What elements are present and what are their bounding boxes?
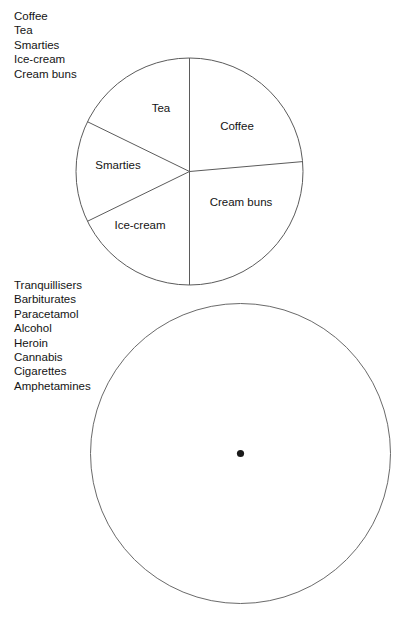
pie-centre-dot [237,450,244,457]
list-item: Heroin [14,336,91,350]
pie-sector-divider [87,122,189,172]
pie-sector-divider [87,172,189,222]
slice-label-tea: Tea [152,102,171,114]
worksheet-page: Coffee Tea Smarties Ice-cream Cream buns… [0,0,404,620]
foods-pie-chart: Coffee Cream buns Ice-cream Smarties Tea [76,58,303,285]
pie-outline [76,58,303,285]
list-item: Paracetamol [14,307,91,321]
slice-label-coffee: Coffee [220,120,254,132]
list-item: Coffee [14,9,77,23]
slice-label-ice-cream: Ice-cream [114,219,165,231]
list-item: Amphetamines [14,379,91,393]
pie-sector-divider [190,162,303,172]
list-item: Tea [14,23,77,37]
list-item: Tranquillisers [14,278,91,292]
list-item: Barbiturates [14,292,91,306]
list-item: Cream buns [14,67,77,81]
list-item: Alcohol [14,321,91,335]
slice-label-smarties: Smarties [95,159,141,171]
blank-pie-outline [91,304,391,604]
list-item: Cigarettes [14,364,91,378]
list-item: Ice-cream [14,52,77,66]
list-item: Cannabis [14,350,91,364]
slice-label-cream-buns: Cream buns [210,196,273,208]
pie-slice-labels: Coffee Cream buns Ice-cream Smarties Tea [95,102,272,231]
pie-sector-lines [87,58,302,285]
list-item: Smarties [14,38,77,52]
drugs-legend: Tranquillisers Barbiturates Paracetamol … [14,278,91,393]
foods-legend: Coffee Tea Smarties Ice-cream Cream buns [14,9,77,81]
drugs-pie-chart-blank [91,304,391,604]
